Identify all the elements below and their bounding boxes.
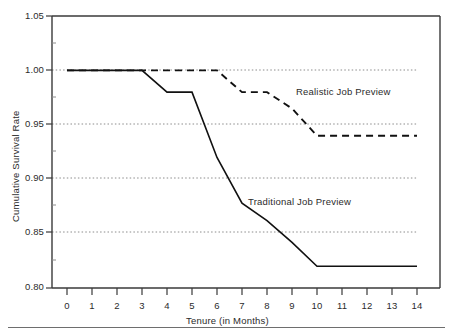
- xtick-label-3: 3: [130, 300, 154, 311]
- xtick-label-9: 9: [280, 300, 304, 311]
- xtick-label-2: 2: [105, 300, 129, 311]
- plot-background: [52, 16, 417, 288]
- annotation-traditional-job-preview: Traditional Job Preview: [248, 196, 351, 207]
- xtick-label-8: 8: [255, 300, 279, 311]
- x-axis-ticks: [67, 288, 417, 295]
- xtick-label-13: 13: [380, 300, 404, 311]
- chart-plot-svg: [0, 0, 453, 336]
- xtick-label-14: 14: [405, 300, 429, 311]
- xtick-label-6: 6: [205, 300, 229, 311]
- xtick-label-10: 10: [305, 300, 329, 311]
- x-axis-title: Tenure (in Months): [186, 315, 269, 326]
- xtick-label-0: 0: [55, 300, 79, 311]
- xtick-label-5: 5: [180, 300, 204, 311]
- xtick-label-7: 7: [230, 300, 254, 311]
- xtick-label-1: 1: [80, 300, 104, 311]
- xtick-label-4: 4: [155, 300, 179, 311]
- xtick-label-11: 11: [330, 300, 354, 311]
- ytick-label-0-80: 0.80: [8, 281, 44, 292]
- footer-rule: [8, 327, 445, 328]
- survival-chart-figure: 1.05 1.00 0.95 0.90 0.85 0.80 0 1 2 3 4 …: [0, 0, 453, 336]
- ytick-label-1-05: 1.05: [8, 10, 44, 21]
- y-axis-title: Cumulative Survival Rate: [10, 111, 21, 222]
- xtick-label-12: 12: [355, 300, 379, 311]
- ytick-label-1-00: 1.00: [8, 64, 44, 75]
- ytick-label-0-85: 0.85: [8, 226, 44, 237]
- annotation-realistic-job-preview: Realistic Job Preview: [296, 86, 390, 97]
